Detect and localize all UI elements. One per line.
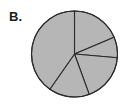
pie-chart-figure: B. — [0, 0, 130, 110]
pie-chart — [0, 0, 130, 110]
